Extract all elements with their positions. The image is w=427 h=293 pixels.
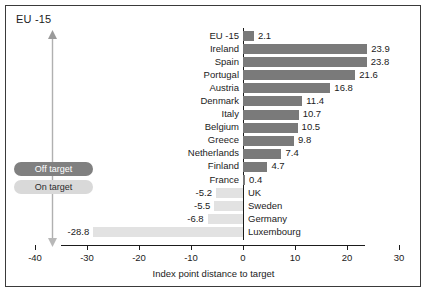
value-label: -28.8	[68, 226, 90, 237]
category-label: UK	[248, 187, 261, 198]
value-label: 2.1	[258, 30, 271, 41]
x-axis-tick-label: 30	[394, 252, 405, 263]
category-label: Portugal	[204, 69, 239, 80]
bar-row: Ireland23.9	[0, 43, 427, 56]
x-axis-tick	[399, 245, 400, 250]
category-label: Austria	[209, 82, 239, 93]
bar-row: Sweden-5.5	[0, 200, 427, 213]
category-label: Finland	[208, 160, 239, 171]
category-label: Italy	[222, 108, 239, 119]
x-axis-tick-label: -40	[28, 252, 42, 263]
value-label: -5.5	[194, 200, 210, 211]
bar	[243, 149, 281, 159]
value-label: 23.8	[371, 56, 390, 67]
x-axis-tick	[191, 245, 192, 250]
bar	[243, 123, 298, 133]
category-label: EU -15	[209, 30, 239, 41]
bar	[243, 110, 299, 120]
x-axis-tick	[347, 245, 348, 250]
x-axis-tick-label: 0	[240, 252, 245, 263]
bar-row: Denmark11.4	[0, 95, 427, 108]
category-label: Netherlands	[188, 147, 239, 158]
bar-row: Greece9.8	[0, 135, 427, 148]
bar-row: France0.4	[0, 174, 427, 187]
value-label: -6.8	[187, 213, 203, 224]
value-label: 4.7	[271, 160, 284, 171]
x-axis-tick-label: -20	[132, 252, 146, 263]
bar	[216, 188, 243, 198]
bar-rows: EU -152.1Ireland23.9Spain23.8Portugal21.…	[0, 30, 427, 240]
bar-row: Austria16.8	[0, 82, 427, 95]
value-label: 21.6	[359, 69, 378, 80]
bar-row: Belgium10.5	[0, 122, 427, 135]
bar	[243, 57, 367, 67]
category-label: Denmark	[200, 95, 239, 106]
x-axis-line	[61, 245, 365, 246]
bar	[208, 214, 243, 224]
bar	[243, 70, 355, 80]
bar-row: Spain23.8	[0, 56, 427, 69]
x-axis-tick-label: -10	[184, 252, 198, 263]
x-axis-tick-label: 20	[342, 252, 353, 263]
page-title: EU -15	[16, 13, 51, 25]
category-label: Greece	[208, 134, 239, 145]
category-label: Germany	[248, 213, 287, 224]
category-label: Luxembourg	[248, 226, 301, 237]
value-label: 7.4	[285, 147, 298, 158]
x-axis-tick-label: 10	[290, 252, 301, 263]
x-axis-tick	[87, 245, 88, 250]
bar	[243, 31, 254, 41]
bar	[243, 175, 245, 185]
x-axis-tick	[295, 245, 296, 250]
category-label: Spain	[215, 56, 239, 67]
bar	[243, 44, 367, 54]
bar-row: Netherlands7.4	[0, 148, 427, 161]
bar	[243, 96, 302, 106]
category-label: Ireland	[210, 43, 239, 54]
x-axis-tick	[139, 245, 140, 250]
value-label: 11.4	[306, 95, 324, 106]
value-label: 10.5	[302, 121, 321, 132]
bar	[243, 136, 294, 146]
chart-figure: EU -15 Off target On target EU -152.1Ire…	[0, 0, 427, 293]
x-axis-tick	[35, 245, 36, 250]
bar	[243, 162, 267, 172]
bar-row: Luxembourg-28.8	[0, 226, 427, 239]
bar	[214, 201, 243, 211]
bar-row: EU -152.1	[0, 30, 427, 43]
value-label: 9.8	[298, 134, 311, 145]
value-label: 23.9	[371, 43, 390, 54]
bar-row: Italy10.7	[0, 109, 427, 122]
bar-row: UK-5.2	[0, 187, 427, 200]
value-label: 10.7	[303, 108, 322, 119]
category-label: Sweden	[248, 200, 282, 211]
value-label: 0.4	[249, 174, 262, 185]
category-label: France	[209, 174, 239, 185]
x-axis-tick	[243, 245, 244, 250]
bar-row: Portugal21.6	[0, 69, 427, 82]
category-label: Belgium	[205, 121, 239, 132]
bar	[243, 83, 330, 93]
value-label: -5.2	[196, 187, 212, 198]
bar-row: Germany-6.8	[0, 213, 427, 226]
bar-row: Finland4.7	[0, 161, 427, 174]
bar	[93, 227, 243, 237]
value-label: 16.8	[334, 82, 353, 93]
x-axis-tick-label: -30	[80, 252, 94, 263]
x-axis-title: Index point distance to target	[0, 268, 427, 279]
